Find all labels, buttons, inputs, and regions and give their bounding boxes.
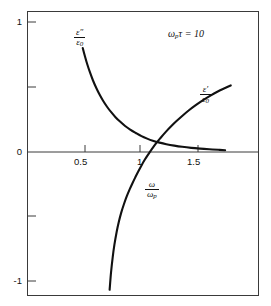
annotation-omega: ω — [168, 28, 175, 39]
y-tick-label-0: 0 — [4, 147, 22, 157]
x-axis-label-denominator: ωp — [145, 189, 159, 201]
x-axis-label-numerator: ω — [145, 180, 159, 189]
annotation-tau-equals-value: τ = 10 — [179, 28, 204, 39]
x-tick-label-1: 1 — [137, 157, 142, 167]
curve-label-eps-real-denominator: ε0 — [200, 94, 211, 106]
y-tick-label-1: 1 — [4, 17, 22, 27]
plot-canvas — [0, 0, 271, 306]
y-tick-label-neg1: -1 — [2, 276, 22, 286]
curve-eps-real — [110, 85, 231, 289]
curve-label-eps-imaginary: ε″ ε0 — [74, 28, 85, 49]
curve-label-eps-imaginary-numerator: ε″ — [74, 28, 85, 37]
curve-label-eps-imaginary-denominator: ε0 — [74, 37, 85, 49]
x-tick-label-1p5: 1.5 — [187, 157, 200, 167]
figure-container: 1 0 -1 0.5 1 1.5 ε″ ε0 ε′ ε0 ω ωp ωpτ = … — [0, 0, 271, 306]
x-axis-label: ω ωp — [145, 180, 159, 201]
curve-label-eps-real: ε′ ε0 — [200, 85, 211, 106]
chart-annotation: ωpτ = 10 — [168, 28, 204, 40]
curve-label-eps-real-numerator: ε′ — [200, 85, 211, 94]
x-tick-label-0p5: 0.5 — [74, 157, 87, 167]
